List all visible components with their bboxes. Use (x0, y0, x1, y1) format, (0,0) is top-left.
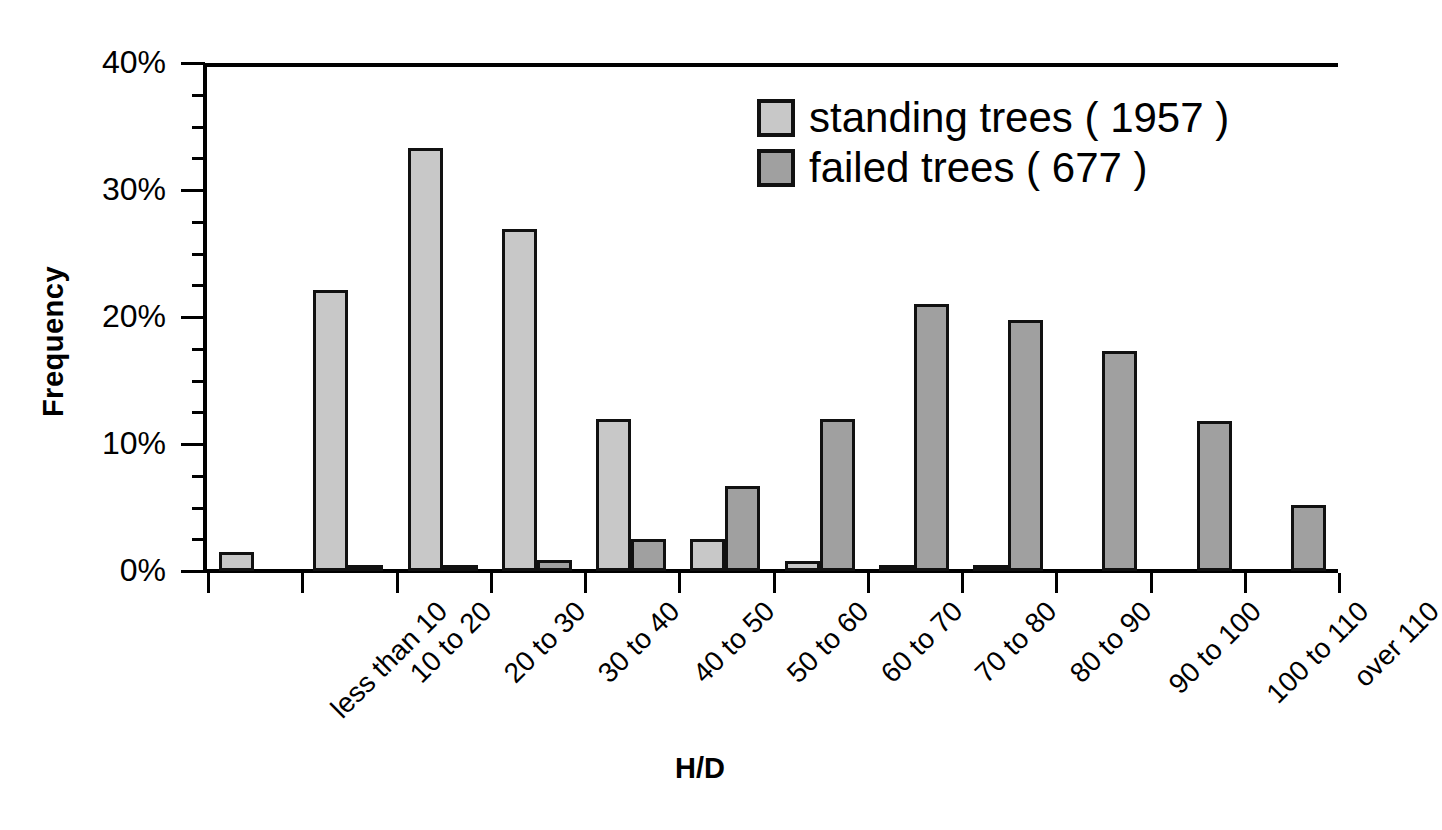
legend: standing trees ( 1957 )failed trees ( 67… (757, 96, 1229, 190)
x-axis-tick (1055, 573, 1058, 593)
x-axis-tick (867, 573, 870, 593)
x-axis-category-label: 50 to 60 (782, 596, 875, 689)
bar-failed-20-to-30[interactable] (443, 565, 478, 571)
x-axis-ticks (207, 573, 1338, 595)
bar-group (207, 63, 301, 571)
bar-failed-100-to-110[interactable] (1197, 421, 1232, 571)
bar-group (490, 63, 584, 571)
legend-swatch-standing (757, 99, 795, 137)
y-axis-major-tick (181, 443, 205, 446)
bar-standing-40-to-50[interactable] (596, 419, 631, 571)
bar-standing-60-to-70[interactable] (785, 561, 820, 571)
x-axis-category-label: 40 to 50 (688, 596, 781, 689)
x-axis-category-label: 60 to 70 (876, 596, 969, 689)
x-axis-category-label: 30 to 40 (593, 596, 686, 689)
bar-standing-80-to-90[interactable] (973, 565, 1008, 571)
y-axis-major-tick (181, 570, 205, 573)
bar-failed-90-to-100[interactable] (1102, 351, 1137, 571)
x-axis-category-label: 70 to 80 (970, 596, 1063, 689)
y-axis-tick-label: 10% (6, 427, 166, 459)
bar-failed-30-to-40[interactable] (537, 560, 572, 571)
bar-group (1244, 63, 1338, 571)
bar-standing-30-to-40[interactable] (502, 229, 537, 571)
x-axis-tick (1338, 573, 1341, 593)
x-axis-tick (490, 573, 493, 593)
y-axis-major-tick (181, 189, 205, 192)
x-axis-category-label: 90 to 100 (1163, 596, 1267, 700)
legend-item[interactable]: failed trees ( 677 ) (757, 146, 1229, 190)
x-axis-tick (207, 573, 210, 593)
x-axis-category-label: 80 to 90 (1065, 596, 1158, 689)
x-axis-tick (773, 573, 776, 593)
x-axis-tick (961, 573, 964, 593)
y-axis-major-tick (181, 316, 205, 319)
bar-failed-60-to-70[interactable] (820, 419, 855, 571)
x-axis-tick (1244, 573, 1247, 593)
bar-group (584, 63, 678, 571)
y-axis-tick-label: 0% (6, 554, 166, 586)
bar-failed-70-to-80[interactable] (914, 304, 949, 571)
bar-failed-10-to-20[interactable] (348, 565, 383, 571)
bar-standing-20-to-30[interactable] (408, 148, 443, 571)
y-axis-title: Frequency (37, 252, 70, 432)
legend-item[interactable]: standing trees ( 1957 ) (757, 96, 1229, 140)
x-axis-category-label: 100 to 110 (1261, 596, 1374, 709)
x-axis-category-label: 20 to 30 (499, 596, 592, 689)
bar-standing-50-to-60[interactable] (690, 539, 725, 571)
x-axis-tick (678, 573, 681, 593)
x-axis-tick (584, 573, 587, 593)
bar-standing-less-than-10[interactable] (219, 552, 254, 571)
x-axis-tick (1150, 573, 1153, 593)
legend-swatch-failed (757, 149, 795, 187)
bar-standing-10-to-20[interactable] (313, 290, 348, 571)
x-axis-tick (301, 573, 304, 593)
x-axis-title: H/D (0, 752, 1400, 785)
y-axis-tick-label: 20% (6, 300, 166, 332)
bar-group (301, 63, 395, 571)
y-axis-major-tick (181, 62, 205, 65)
legend-label: standing trees ( 1957 ) (809, 96, 1229, 140)
y-axis-tick-label: 30% (6, 173, 166, 205)
y-axis-tick-label: 40% (6, 46, 166, 78)
x-axis-tick (396, 573, 399, 593)
bar-failed-80-to-90[interactable] (1008, 320, 1043, 571)
bar-group (396, 63, 490, 571)
bar-failed-50-to-60[interactable] (725, 486, 760, 571)
bar-standing-70-to-80[interactable] (879, 565, 914, 571)
bar-failed-40-to-50[interactable] (631, 539, 666, 571)
bar-failed-over-110[interactable] (1291, 505, 1326, 571)
legend-label: failed trees ( 677 ) (809, 146, 1148, 190)
